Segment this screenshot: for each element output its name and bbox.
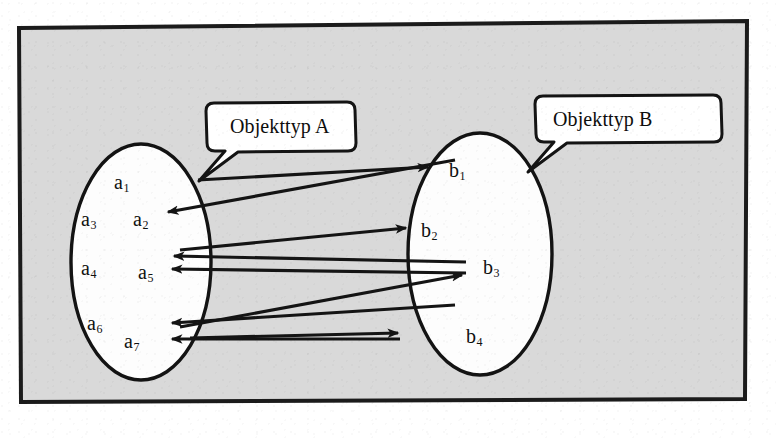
- diagram-canvas: Objekttyp A Objekttyp B a1 a3 a2 a4 a5 a…: [0, 0, 776, 443]
- set-b-element-b3: b3: [483, 257, 499, 277]
- callout-a-label: Objekttyp A: [230, 116, 329, 136]
- set-b-element-b1: b1: [449, 160, 465, 180]
- set-a-element-a6: a6: [87, 313, 102, 333]
- set-a-element-a5: a5: [138, 262, 153, 282]
- set-b-element-b4: b4: [466, 326, 482, 346]
- set-a-element-a7: a7: [124, 331, 139, 351]
- set-a-element-a4: a4: [81, 258, 96, 278]
- set-a-element-a1: a1: [114, 172, 129, 192]
- set-a-element-a3: a3: [81, 209, 96, 229]
- callout-b-label: Objekttyp B: [553, 109, 652, 129]
- diagram-vector-layer: [0, 0, 776, 443]
- set-b-element-b2: b2: [421, 220, 437, 240]
- set-a-element-a2: a2: [133, 209, 148, 229]
